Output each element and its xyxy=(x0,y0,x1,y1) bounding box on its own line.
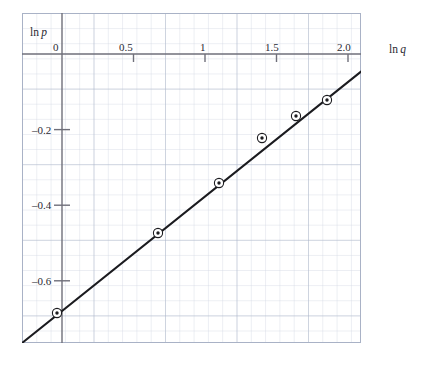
data-point xyxy=(52,308,61,317)
data-point xyxy=(322,95,331,104)
data-point xyxy=(214,178,223,187)
y-tick-label-minus-0-2: –0.2 xyxy=(32,124,51,136)
data-point xyxy=(291,111,300,120)
data-point xyxy=(257,133,266,142)
grid-major xyxy=(22,13,361,343)
y-axis-title-it: p xyxy=(41,26,47,38)
x-tick-label-2-0: 2.0 xyxy=(337,41,351,53)
plot-area xyxy=(22,13,361,343)
graph-figure: ln p ln q 0 0.5 1 1.5 2.0 –0.2 –0.4 –0.6 xyxy=(0,0,442,377)
x-tick-label-0-5: 0.5 xyxy=(119,41,133,53)
chart-svg xyxy=(22,13,361,343)
x-axis-title-rm: ln xyxy=(389,43,398,55)
x-tick-label-1: 1 xyxy=(200,41,206,53)
x-axis-title: ln q xyxy=(389,43,406,55)
x-tick-label-0: 0 xyxy=(53,41,59,53)
y-tick-label-minus-0-4: –0.4 xyxy=(32,199,51,211)
y-axis-title: ln p xyxy=(30,26,47,38)
y-axis-title-rm: ln xyxy=(30,26,39,38)
x-tick-label-1-5: 1.5 xyxy=(265,41,279,53)
y-tick-label-minus-0-6: –0.6 xyxy=(32,275,51,287)
data-point xyxy=(153,228,162,237)
x-axis-title-it: q xyxy=(400,43,406,55)
